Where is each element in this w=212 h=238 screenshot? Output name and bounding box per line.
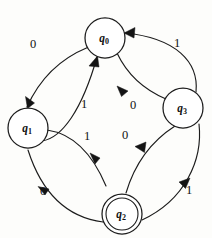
transition-q3-q0[interactable]: 1 bbox=[124, 28, 196, 93]
state-node-q0-label-subscript: 0 bbox=[105, 37, 109, 46]
transition-q2-q3-label: 0 bbox=[122, 128, 128, 142]
transition-q0-q3-arrowhead bbox=[117, 86, 128, 97]
automaton-svg: 0 1 0 1 1 0 bbox=[0, 0, 212, 238]
transition-q0-q3[interactable]: 0 bbox=[117, 53, 166, 112]
transition-q1-q2-label: 1 bbox=[84, 129, 90, 143]
state-node-q0[interactable]: q0 bbox=[85, 18, 125, 58]
state-node-q2[interactable]: q2 bbox=[102, 194, 142, 234]
transition-q2-q3-arrowhead bbox=[135, 142, 146, 153]
transition-q2-q1-label: 0 bbox=[40, 184, 46, 198]
transition-q3-q0-path bbox=[125, 33, 196, 92]
transition-q3-q2-path bbox=[142, 124, 200, 220]
transition-q0-q1-path bbox=[27, 48, 88, 108]
transition-q0-q1[interactable]: 0 bbox=[26, 37, 88, 109]
transition-q3-q0-arrowhead bbox=[124, 28, 135, 39]
state-node-q2-label-subscript: 2 bbox=[122, 213, 126, 222]
transition-q0-q1-label: 0 bbox=[30, 37, 36, 51]
transition-q3-q0-label: 1 bbox=[174, 36, 180, 50]
transition-q1-q0-arrowhead bbox=[89, 56, 99, 67]
state-node-q3[interactable]: q3 bbox=[163, 88, 203, 128]
transition-q1-q0-label: 1 bbox=[81, 97, 87, 111]
transition-q3-q2-label: 1 bbox=[186, 183, 192, 197]
state-diagram-canvas: 0 1 0 1 1 0 bbox=[0, 0, 212, 238]
transition-q1-q0[interactable]: 1 bbox=[42, 56, 99, 141]
transition-q1-q2[interactable]: 1 bbox=[47, 129, 106, 186]
state-node-q1[interactable]: q1 bbox=[8, 108, 48, 148]
transition-q2-q3-path bbox=[126, 126, 175, 193]
transition-q0-q3-label: 0 bbox=[130, 98, 136, 112]
state-node-q3-label-subscript: 3 bbox=[183, 107, 187, 116]
state-node-q1-label-subscript: 1 bbox=[28, 127, 32, 136]
transition-q2-q1[interactable]: 0 bbox=[28, 150, 103, 222]
transition-q3-q2[interactable]: 1 bbox=[142, 124, 200, 220]
transition-q2-q3[interactable]: 0 bbox=[122, 126, 175, 193]
